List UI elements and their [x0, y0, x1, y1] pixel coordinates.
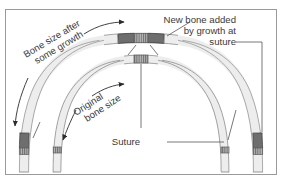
- suture-band-apex-inner: [134, 55, 148, 63]
- arrow-outer-growth-top: [84, 22, 124, 34]
- suture-band-lower-right-outer: [253, 148, 263, 155]
- new-bone-line-2: by growth at: [184, 25, 237, 36]
- new-bone-line-3: suture: [209, 36, 236, 47]
- suture-band-lower-left-inner: [53, 147, 61, 153]
- label-suture: Suture: [112, 136, 140, 147]
- suture-band-lower-right-inner: [221, 147, 229, 153]
- suture-band-lower-left-outer: [19, 148, 29, 155]
- new-bone-segment-lower-left: [19, 133, 29, 148]
- figure-canvas: New bone added by growth at suture Bone …: [0, 0, 284, 186]
- new-bone-segment-right: [148, 33, 164, 43]
- new-bone-line-1: New bone added: [163, 14, 236, 25]
- suture-band-apex-outer: [134, 33, 148, 42]
- new-bone-segment-left: [118, 33, 134, 43]
- new-bone-segment-lower-right: [253, 133, 263, 148]
- diagram-svg-wrapper: New bone added by growth at suture Bone …: [0, 0, 284, 186]
